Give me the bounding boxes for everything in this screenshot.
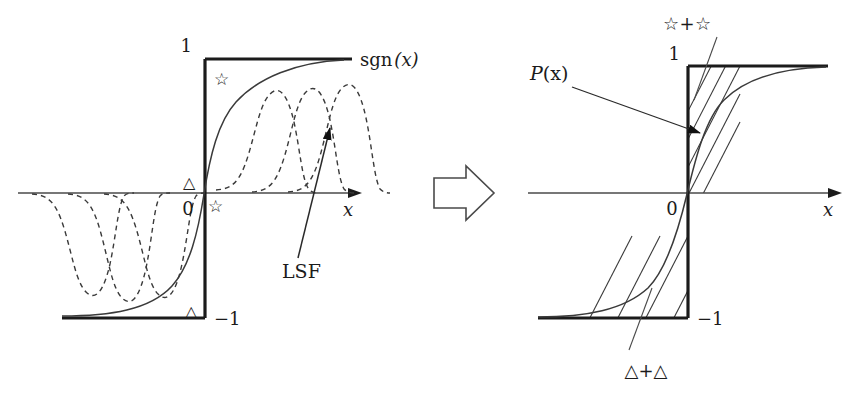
right-curve-label-p: P(x)	[529, 62, 568, 84]
left-star-lower-marker: ☆	[208, 196, 223, 216]
transform-block-arrow	[434, 166, 494, 220]
left-origin-label: 0	[182, 198, 193, 219]
right-tick-label-minus-one: −1	[697, 308, 724, 329]
right-curve-label-p-arg: (x)	[543, 62, 569, 84]
left-lsf-lobe-neg-1	[32, 193, 134, 296]
right-curve-label-p-text: P	[529, 62, 544, 84]
hatch-line	[588, 236, 660, 376]
right-p-curve	[538, 67, 826, 317]
left-triangle-lower-marker: △	[185, 302, 198, 321]
left-curve-label-sgn-arg: (x)	[394, 49, 418, 70]
left-lsf-lobe-1	[216, 90, 318, 193]
figure-svg: ☆ ☆ △ △ 1 −1 0 x sgn(x) LSF	[0, 0, 853, 397]
right-p-leader-line	[572, 87, 700, 133]
hatch-line	[668, 122, 740, 262]
left-tick-label-minus-one: −1	[214, 308, 241, 329]
figure-root: ☆ ☆ △ △ 1 −1 0 x sgn(x) LSF	[0, 0, 853, 397]
right-tick-label-one: 1	[669, 43, 680, 64]
hatch-line	[560, 236, 632, 376]
left-curve-label-sgn-text: sgn	[360, 49, 393, 70]
hatch-line	[668, 94, 740, 234]
right-lower-hatch-group	[560, 236, 744, 376]
left-panel: ☆ ☆ △ △ 1 −1 0 x sgn(x) LSF	[18, 35, 419, 329]
hatch-line	[616, 236, 688, 376]
left-triangle-upper-marker: △	[183, 173, 196, 192]
right-lower-area-label: △+△	[625, 360, 668, 381]
left-lsf-label: LSF	[282, 260, 321, 282]
right-origin-label: 0	[666, 198, 677, 219]
hatch-line	[672, 236, 744, 376]
right-panel: 1 −1 0 x P(x) ☆+☆ △+△	[528, 10, 833, 381]
hatch-line	[644, 236, 716, 376]
left-curve-label-sgn: sgn(x)	[360, 49, 419, 70]
left-lsf-lobe-2	[252, 88, 354, 193]
block-arrow-right-icon	[434, 166, 494, 220]
right-x-axis-label: x	[823, 199, 833, 220]
left-x-axis-label: x	[343, 199, 353, 220]
left-star-upper-marker: ☆	[214, 69, 229, 89]
right-upper-area-label: ☆+☆	[663, 13, 710, 34]
left-tick-label-one: 1	[181, 35, 192, 56]
